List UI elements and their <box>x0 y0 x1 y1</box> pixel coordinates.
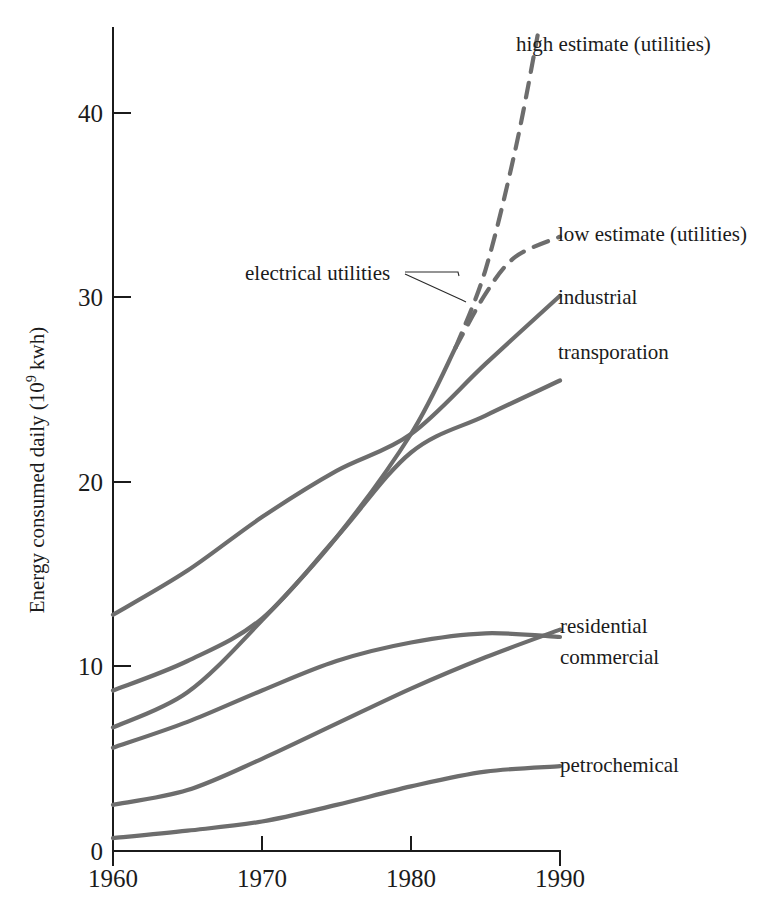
y-tick-label-30: 30 <box>78 284 103 311</box>
series-label-low-estimate: low estimate (utilities) <box>558 222 747 246</box>
series-line-residential <box>113 633 560 748</box>
axes-group <box>113 28 560 866</box>
tick-labels-group: 40 30 20 10 0 1960 1970 1980 1990 <box>78 100 585 892</box>
y-axis-title-prefix: Energy consumed daily (10 <box>25 382 49 613</box>
series-line-transporation <box>113 381 560 691</box>
series-label-industrial: industrial <box>558 285 637 309</box>
y-axis-title-suffix: kwh) <box>25 327 49 375</box>
x-tick-label-1980: 1980 <box>386 865 436 892</box>
series-line-petrochemical <box>113 766 560 838</box>
leader-line-to-dashed-utilities <box>405 274 466 302</box>
series-line-commercial <box>113 630 560 805</box>
y-tick-label-40: 40 <box>78 100 103 127</box>
series-label-residential: residential <box>560 614 648 638</box>
annotation-leaders-group <box>405 272 466 302</box>
y-axis-title-exponent: 9 <box>24 375 39 382</box>
chart-page: 40 30 20 10 0 1960 1970 1980 1990 Energy… <box>0 0 776 914</box>
y-axis-title-group: Energy consumed daily (109 kwh) <box>24 327 49 614</box>
y-tick-label-0: 0 <box>91 838 104 865</box>
series-line-high-estimate <box>456 36 538 348</box>
annotation-label-electrical-utilities: electrical utilities <box>245 261 390 285</box>
y-tick-label-20: 20 <box>78 469 103 496</box>
y-axis-title: Energy consumed daily (109 kwh) <box>24 327 49 614</box>
series-label-high-estimate: high estimate (utilities) <box>516 32 711 56</box>
x-tick-label-1990: 1990 <box>535 865 585 892</box>
x-tick-label-1960: 1960 <box>88 865 138 892</box>
series-line-low-estimate <box>456 237 560 348</box>
series-label-transporation: transporation <box>558 340 669 364</box>
energy-consumption-line-chart: 40 30 20 10 0 1960 1970 1980 1990 Energy… <box>0 0 776 914</box>
series-label-commercial: commercial <box>560 645 659 669</box>
x-tick-label-1970: 1970 <box>237 865 287 892</box>
series-line-industrial <box>113 296 560 615</box>
series-group <box>113 36 560 839</box>
leader-line-to-solid-utilities <box>405 272 459 276</box>
y-tick-label-10: 10 <box>78 653 103 680</box>
series-label-petrochemical: petrochemical <box>560 753 679 777</box>
